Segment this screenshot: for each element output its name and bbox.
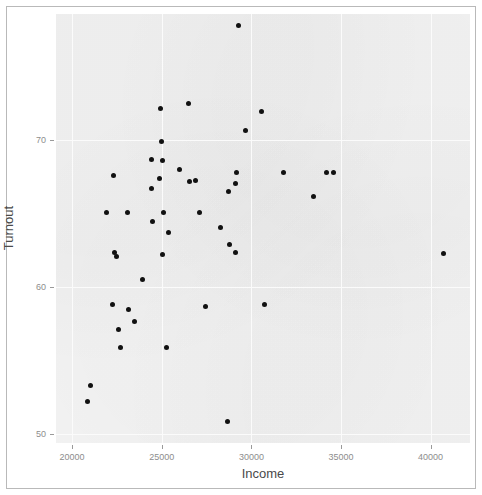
x-tick-label-40000: 40000 bbox=[418, 452, 443, 462]
scatter-plot-figure: 706050 2000025000300003500040000 Income … bbox=[0, 0, 482, 495]
data-point bbox=[160, 158, 165, 163]
y-tick-mark-60 bbox=[50, 287, 54, 288]
data-point bbox=[114, 254, 119, 259]
data-point bbox=[233, 250, 238, 255]
data-point bbox=[104, 210, 109, 215]
y-tick-label-60: 60 bbox=[24, 282, 46, 292]
data-point bbox=[116, 327, 121, 332]
data-point bbox=[227, 242, 232, 247]
data-point bbox=[85, 399, 90, 404]
data-point bbox=[311, 194, 316, 199]
data-point bbox=[234, 170, 239, 175]
data-point bbox=[118, 345, 123, 350]
x-tick-mark-20000 bbox=[72, 445, 73, 449]
data-point bbox=[177, 167, 182, 172]
data-point bbox=[166, 230, 171, 235]
gridline-x-35000 bbox=[341, 14, 342, 443]
data-point bbox=[125, 210, 130, 215]
data-point bbox=[441, 251, 446, 256]
gridline-x-25000 bbox=[162, 14, 163, 443]
plot-panel bbox=[56, 14, 470, 443]
data-point bbox=[110, 302, 115, 307]
data-point bbox=[236, 23, 241, 28]
gridline-x-40000 bbox=[431, 14, 432, 443]
x-tick-mark-40000 bbox=[431, 445, 432, 449]
data-point bbox=[111, 173, 116, 178]
gridline-x-30000 bbox=[251, 14, 252, 443]
y-tick-mark-50 bbox=[50, 434, 54, 435]
data-point bbox=[281, 170, 286, 175]
data-point bbox=[88, 383, 93, 388]
y-tick-mark-70 bbox=[50, 140, 54, 141]
gridline-y-60 bbox=[56, 287, 470, 288]
data-point bbox=[233, 181, 238, 186]
data-point bbox=[226, 189, 231, 194]
x-tick-mark-25000 bbox=[162, 445, 163, 449]
data-point bbox=[203, 304, 208, 309]
data-point bbox=[140, 277, 145, 282]
data-point bbox=[158, 106, 163, 111]
gridline-y-70 bbox=[56, 140, 470, 141]
x-tick-label-35000: 35000 bbox=[328, 452, 353, 462]
data-point bbox=[160, 252, 165, 257]
data-point bbox=[259, 109, 264, 114]
data-point bbox=[126, 307, 131, 312]
data-point bbox=[243, 128, 248, 133]
data-point bbox=[186, 101, 191, 106]
x-tick-mark-30000 bbox=[251, 445, 252, 449]
x-tick-label-20000: 20000 bbox=[60, 452, 85, 462]
data-point bbox=[218, 225, 223, 230]
y-tick-label-70: 70 bbox=[24, 135, 46, 145]
data-point bbox=[225, 419, 230, 424]
data-point bbox=[150, 219, 155, 224]
y-axis-title: Turnout bbox=[1, 206, 16, 250]
data-point bbox=[324, 170, 329, 175]
data-point bbox=[331, 170, 336, 175]
panel-texture bbox=[56, 14, 470, 443]
data-point bbox=[193, 178, 198, 183]
gridline-y-50 bbox=[56, 434, 470, 435]
gridline-x-20000 bbox=[72, 14, 73, 443]
data-point bbox=[149, 157, 154, 162]
data-point bbox=[159, 139, 164, 144]
x-axis-title: Income bbox=[56, 466, 470, 481]
data-point bbox=[132, 319, 137, 324]
data-point bbox=[164, 345, 169, 350]
data-point bbox=[197, 210, 202, 215]
x-tick-label-30000: 30000 bbox=[239, 452, 264, 462]
data-point bbox=[187, 179, 192, 184]
x-tick-label-25000: 25000 bbox=[149, 452, 174, 462]
y-tick-label-50: 50 bbox=[24, 429, 46, 439]
data-point bbox=[149, 186, 154, 191]
data-point bbox=[161, 210, 166, 215]
x-tick-mark-35000 bbox=[341, 445, 342, 449]
data-point bbox=[262, 302, 267, 307]
